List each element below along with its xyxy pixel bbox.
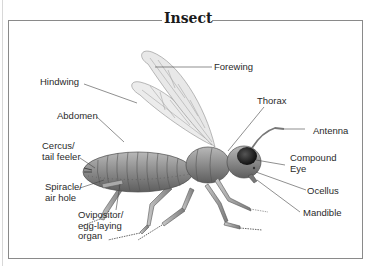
head (227, 146, 261, 183)
mandible (248, 174, 257, 183)
label-spiracle: Spiracle/ air hole (45, 182, 82, 203)
label-abdomen: Abdomen (57, 111, 98, 122)
label-forewing: Forewing (214, 62, 253, 73)
label-compound-eye: Compound Eye (290, 153, 336, 174)
antenna (252, 128, 284, 148)
compound-eye (237, 147, 257, 165)
label-cercus: Cercus/ tail feeler (42, 141, 81, 162)
label-thorax: Thorax (257, 96, 287, 107)
label-antenna: Antenna (313, 126, 348, 137)
label-mandible: Mandible (303, 208, 342, 219)
label-hindwing: Hindwing (40, 77, 79, 88)
label-ocellus: Ocellus (307, 186, 339, 197)
label-ovipositor: Ovipositor/ egg-laying organ (78, 210, 123, 242)
abdomen (83, 152, 193, 192)
thorax (186, 147, 230, 183)
ocellus (253, 167, 255, 169)
